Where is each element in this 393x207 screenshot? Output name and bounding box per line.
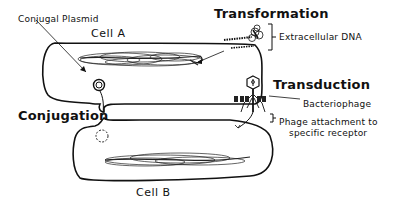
- conjugation-title: Conjugation: [18, 109, 109, 122]
- cell-b-label: Cell B: [136, 187, 171, 198]
- transformation-arrowhead: [196, 59, 202, 64]
- extracellular-dna-bracket: [268, 24, 276, 50]
- bacteriophage-label: Bacteriophage: [303, 100, 371, 109]
- plasmid-icon: [94, 80, 105, 91]
- phage-attachment-label-line2: specific receptor: [289, 129, 367, 138]
- bacteriophage-pointer-line: [269, 96, 300, 99]
- chromosome-b-icon: [105, 153, 250, 166]
- cell-a-outline: [43, 43, 262, 112]
- extracellular-dna-label: Extracellular DNA: [279, 33, 362, 42]
- transduction-title: Transduction: [273, 78, 370, 91]
- cell-a-label: Cell A: [91, 28, 126, 39]
- transferred-plasmid-dashed: [96, 130, 108, 142]
- phage-attachment-bracket: [270, 114, 276, 122]
- transformation-title: Transformation: [214, 7, 329, 20]
- cell-b-outline: [73, 118, 272, 181]
- chromosome-a-icon: [78, 52, 203, 66]
- conjugal-plasmid-label: Conjugal Plasmid: [18, 15, 99, 24]
- phage-attachment-label-line1: Phage attachment to: [279, 118, 378, 127]
